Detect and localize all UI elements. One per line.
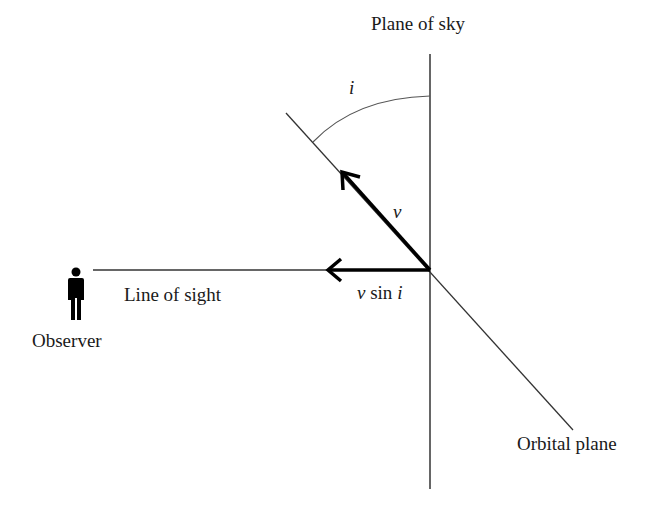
velocity-label: v (393, 202, 401, 221)
inclination-diagram: Plane of sky i v v sin i Line of sight O… (0, 0, 667, 507)
v-sin-i-i: i (397, 282, 402, 303)
inclination-label: i (349, 78, 354, 97)
observer-label: Observer (32, 331, 102, 350)
inclination-arc (313, 96, 430, 142)
v-sin-i-label: v sin i (357, 283, 402, 302)
diagram-canvas (0, 0, 667, 507)
plane-of-sky-label: Plane of sky (371, 14, 465, 33)
v-sin-i-sin: sin (365, 282, 397, 303)
orbital-plane-label: Orbital plane (517, 434, 617, 453)
person-icon (68, 268, 84, 321)
velocity-arrow (343, 173, 430, 270)
line-of-sight-label: Line of sight (124, 285, 221, 304)
